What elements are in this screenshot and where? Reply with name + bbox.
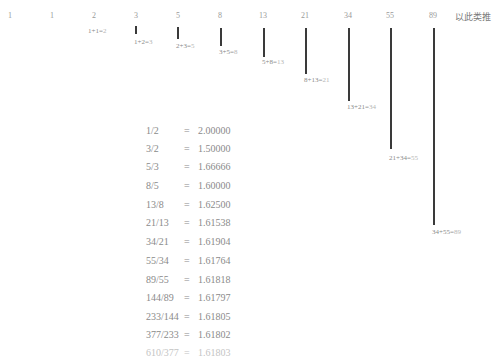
connector-line bbox=[305, 28, 307, 74]
connector-line bbox=[263, 28, 265, 57]
ratio-row: 89/55=1.61818 bbox=[146, 274, 231, 285]
ratio-row: 233/144=1.61805 bbox=[146, 311, 231, 322]
fib-number-3: 2 bbox=[92, 11, 96, 20]
sum-label: 3+5=8 bbox=[219, 48, 237, 56]
sum-label: 8+13=21 bbox=[304, 76, 329, 84]
sum-label: 1+2=3 bbox=[134, 38, 152, 46]
fib-number-6: 8 bbox=[218, 11, 222, 20]
sum-label: 13+21=34 bbox=[347, 103, 376, 111]
connector-line bbox=[220, 28, 222, 46]
ratio-row: 21/13=1.61538 bbox=[146, 217, 231, 228]
connector-line bbox=[177, 27, 179, 39]
sum-label: 1+1=2 bbox=[88, 27, 106, 35]
sum-label: 2+3=5 bbox=[176, 42, 194, 50]
ratio-row: 8/5=1.60000 bbox=[146, 180, 231, 191]
ratio-row: 5/3=1.66666 bbox=[146, 161, 231, 172]
ratio-row: 13/8=1.62500 bbox=[146, 199, 231, 210]
ratio-row: 55/34=1.61764 bbox=[146, 255, 231, 266]
fib-number-5: 5 bbox=[176, 11, 180, 20]
ratio-row: 610/377=1.61803 bbox=[146, 347, 231, 358]
sum-label: 21+34=55 bbox=[389, 154, 418, 162]
etc-label: 以此类推 bbox=[455, 10, 491, 23]
fib-number-8: 21 bbox=[301, 11, 309, 20]
fib-number-7: 13 bbox=[259, 11, 267, 20]
ratio-row: 1/2=2.00000 bbox=[146, 125, 231, 136]
fib-number-10: 55 bbox=[386, 11, 394, 20]
fib-number-2: 1 bbox=[50, 11, 54, 20]
connector-line bbox=[390, 28, 392, 149]
ratio-row: 3/2=1.50000 bbox=[146, 143, 231, 154]
sum-label: 5+8=13 bbox=[262, 58, 284, 66]
ratio-row: 144/89=1.61797 bbox=[146, 292, 231, 303]
fib-number-4: 3 bbox=[134, 11, 138, 20]
connector-line bbox=[433, 28, 435, 225]
ratio-row: 377/233=1.61802 bbox=[146, 329, 231, 340]
connector-line bbox=[135, 26, 137, 34]
fib-number-11: 89 bbox=[429, 11, 437, 20]
sum-label: 34+55=89 bbox=[432, 228, 461, 236]
fib-number-1: 1 bbox=[8, 11, 12, 20]
ratio-row: 34/21=1.61904 bbox=[146, 236, 231, 247]
connector-line bbox=[348, 28, 350, 101]
fib-number-9: 34 bbox=[344, 11, 352, 20]
